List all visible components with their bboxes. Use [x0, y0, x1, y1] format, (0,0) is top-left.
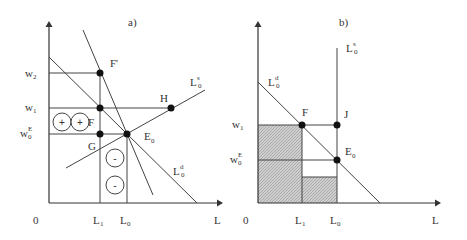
- svg-text:E: E: [28, 125, 32, 133]
- minus-symbol: -: [113, 180, 116, 191]
- supply-curve-Ls0: [66, 90, 205, 168]
- x-axis-arrow-icon: [217, 200, 223, 207]
- svg-text:0: 0: [198, 82, 202, 90]
- label-L-axis: L: [432, 214, 439, 226]
- svg-text:d: d: [275, 74, 279, 82]
- svg-text:w: w: [232, 118, 240, 130]
- svg-text:L: L: [268, 76, 275, 88]
- label-wE0: w E 0: [230, 151, 242, 167]
- svg-text:d: d: [180, 163, 184, 171]
- panel-b: b) F J E 0 L s 0: [230, 16, 441, 228]
- shaded-area-right: [302, 177, 337, 203]
- svg-text:1: 1: [33, 107, 37, 115]
- y-axis-arrow-icon: [255, 21, 262, 27]
- svg-text:E: E: [238, 151, 242, 159]
- diagram-canvas: a) + + - - F' F G: [0, 0, 467, 240]
- panel-a-title: a): [128, 16, 137, 29]
- panel-b-title: b): [339, 16, 349, 29]
- label-L1: L 1: [93, 214, 104, 228]
- svg-text:L: L: [93, 214, 100, 226]
- x-axis-arrow-icon: [435, 200, 441, 207]
- point-F-prime: [97, 70, 104, 77]
- label-L0: L 0: [120, 214, 131, 228]
- svg-text:E: E: [144, 130, 151, 142]
- label-Ls0: L s 0: [190, 74, 202, 90]
- svg-text:2: 2: [33, 73, 37, 81]
- minus-symbol: -: [113, 153, 116, 164]
- svg-text:L: L: [330, 214, 337, 226]
- label-origin: 0: [33, 214, 39, 226]
- point-E0: [124, 131, 131, 138]
- svg-text:0: 0: [28, 133, 32, 141]
- label-Ls0: L s 0: [346, 40, 358, 56]
- label-H: H: [160, 92, 168, 104]
- label-origin: 0: [243, 214, 249, 226]
- svg-text:L: L: [173, 165, 180, 177]
- label-F: F: [302, 106, 308, 118]
- label-E0: E 0: [345, 145, 356, 160]
- steep-demand-curve: [83, 30, 153, 195]
- svg-text:L: L: [120, 214, 127, 226]
- svg-text:w: w: [25, 101, 33, 113]
- y-axis-arrow-icon: [46, 21, 53, 27]
- labor-market-diagram: a) + + - - F' F G: [0, 0, 467, 240]
- point-F: [97, 105, 104, 112]
- svg-text:1: 1: [302, 220, 306, 228]
- label-L1: L 1: [295, 214, 306, 228]
- point-F: [299, 122, 306, 129]
- panel-a: a) + + - - F' F G: [20, 16, 223, 228]
- svg-text:E: E: [345, 145, 352, 157]
- svg-text:s: s: [197, 74, 200, 82]
- svg-text:s: s: [353, 40, 356, 48]
- svg-text:L: L: [346, 42, 353, 54]
- label-F: F: [88, 116, 94, 128]
- svg-text:0: 0: [354, 48, 358, 56]
- svg-text:0: 0: [352, 152, 356, 160]
- label-w2: w 2: [25, 67, 37, 81]
- plus-symbol: +: [59, 117, 65, 128]
- svg-text:w: w: [20, 127, 28, 139]
- svg-text:0: 0: [181, 171, 185, 179]
- label-w1: w 1: [25, 101, 37, 115]
- svg-text:L: L: [295, 214, 302, 226]
- svg-text:w: w: [25, 67, 33, 79]
- svg-text:1: 1: [240, 124, 244, 132]
- svg-text:1: 1: [100, 220, 104, 228]
- point-J: [334, 122, 341, 129]
- label-L0: L 0: [330, 214, 341, 228]
- svg-text:0: 0: [276, 82, 280, 90]
- svg-text:0: 0: [238, 159, 242, 167]
- label-F-prime: F': [110, 57, 118, 69]
- svg-text:0: 0: [337, 220, 341, 228]
- label-E0: E 0: [144, 130, 155, 145]
- point-H: [168, 105, 175, 112]
- label-wE0: w E 0: [20, 125, 32, 141]
- label-L-axis: L: [214, 214, 221, 226]
- label-Ld0: L d 0: [173, 163, 185, 179]
- point-E0: [334, 157, 341, 164]
- point-G: [97, 131, 104, 138]
- label-Ld0: L d 0: [268, 74, 280, 90]
- svg-text:0: 0: [151, 137, 155, 145]
- svg-text:0: 0: [127, 220, 131, 228]
- label-J: J: [344, 108, 349, 120]
- label-w1: w 1: [232, 118, 244, 132]
- label-G: G: [88, 140, 96, 152]
- svg-text:w: w: [230, 153, 238, 165]
- shaded-area-left: [258, 125, 302, 203]
- plus-symbol: +: [77, 117, 83, 128]
- svg-text:L: L: [190, 76, 197, 88]
